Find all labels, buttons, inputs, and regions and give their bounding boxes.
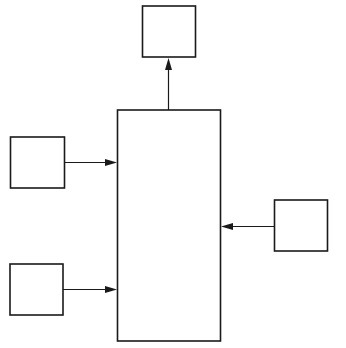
input-left-upper-box <box>11 137 65 188</box>
central-box <box>118 110 221 341</box>
arrowhead-up-icon <box>165 58 172 70</box>
block-diagram <box>0 0 346 348</box>
arrow-right-to-central <box>221 223 275 230</box>
arrow-central-to-output-top <box>165 58 172 110</box>
arrow-left-upper-to-central <box>65 159 118 166</box>
arrowhead-left-icon <box>221 223 233 230</box>
input-left-lower-box <box>10 264 63 315</box>
arrow-left-lower-to-central <box>63 286 117 293</box>
input-right-box <box>275 200 328 251</box>
output-top-box <box>143 6 196 57</box>
arrowhead-right-icon <box>105 159 117 166</box>
arrowhead-right-icon <box>105 286 117 293</box>
